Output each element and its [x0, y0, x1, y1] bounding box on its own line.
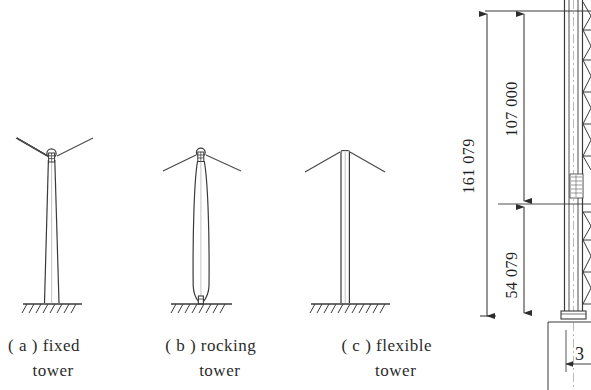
- dimension-label-overall-height: 161 079: [460, 130, 478, 202]
- caption-tower-a-tag: ( a ): [8, 336, 38, 355]
- dimension-label-upper-segment: 107 000: [503, 73, 521, 145]
- tower-a-fixed-support: [22, 304, 82, 313]
- tower-a-group: [16, 138, 93, 313]
- tower-b-group: [163, 148, 241, 313]
- lattice-tower-elevation: [485, 0, 591, 390]
- tower-b-ground-support: [171, 304, 232, 313]
- tower-c-cable-right: [350, 152, 385, 172]
- tower-c-cable-left: [305, 152, 340, 172]
- tower-b-cable-right: [206, 155, 241, 171]
- tower-c-group: [305, 151, 390, 314]
- caption-tower-a-line2: tower: [14, 359, 73, 384]
- caption-tower-b-line2: tower: [181, 359, 240, 384]
- caption-tower-b-tag: ( b ): [165, 336, 196, 355]
- lattice-base-footing: [548, 311, 591, 390]
- dimension-overall-height: [480, 14, 496, 316]
- tower-a-cable-left: [16, 138, 47, 156]
- caption-tower-c-name: flexible: [376, 336, 432, 355]
- dimension-label-base-offset: 3: [575, 344, 584, 365]
- figure-page: 161 079 107 000 54 079 3 ( a ) fixed tow…: [0, 0, 591, 390]
- caption-tower-c: ( c ) flexible tower: [341, 334, 432, 383]
- tower-b-rocker-pin: [198, 296, 203, 304]
- tower-b-cable-left: [163, 155, 196, 171]
- tower-c-shaft: [341, 151, 349, 304]
- dimension-label-lower-segment: 54 079: [503, 241, 521, 309]
- caption-tower-b-name: rocking: [201, 336, 256, 355]
- caption-tower-c-tag: ( c ): [341, 336, 371, 355]
- tower-a-shaft: [45, 160, 60, 303]
- caption-tower-c-line2: tower: [357, 359, 416, 384]
- tower-b-saddle-icon: [196, 148, 205, 161]
- tower-diagram-svg: [0, 0, 591, 390]
- caption-tower-c-line1: ( c ) flexible: [341, 334, 432, 359]
- figure-caption-row: ( a ) fixed tower ( b ) rocking tower ( …: [0, 334, 440, 390]
- caption-tower-a-line1: ( a ) fixed: [8, 334, 80, 359]
- tower-c-fixed-support: [310, 304, 390, 313]
- caption-tower-a-name: fixed: [43, 336, 80, 355]
- caption-tower-b-line1: ( b ) rocking: [165, 334, 256, 359]
- lattice-bracing: [583, 2, 591, 304]
- caption-tower-a: ( a ) fixed tower: [8, 334, 80, 383]
- tower-b-shaft: [193, 161, 209, 302]
- caption-tower-b: ( b ) rocking tower: [165, 334, 256, 383]
- tower-a-cable-right: [57, 138, 93, 156]
- lattice-platform-detail: [570, 174, 583, 198]
